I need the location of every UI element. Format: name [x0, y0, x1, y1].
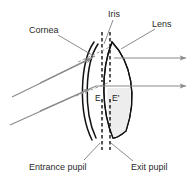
cornea-inner-arc	[87, 44, 98, 138]
label-lens: Lens	[152, 19, 172, 29]
label-cornea: Cornea	[29, 25, 59, 35]
label-entrance-pupil: Entrance pupil	[29, 162, 87, 172]
leader-iris	[104, 20, 113, 44]
label-point-e: E	[95, 93, 101, 103]
ray-bundle	[10, 47, 186, 125]
diagram-canvas: Cornea Iris Lens E E' Entrance pupil Exi…	[0, 0, 192, 179]
leader-exit-pupil	[111, 143, 133, 161]
label-exit-pupil: Exit pupil	[131, 162, 168, 172]
leader-entrance-pupil	[84, 143, 100, 160]
incoming-ray-upper-tail	[40, 56, 95, 83]
label-iris: Iris	[108, 9, 120, 19]
leader-lens	[121, 29, 155, 49]
eye-pupil-diagram: Cornea Iris Lens E E' Entrance pupil Exi…	[0, 0, 192, 179]
label-point-e-prime: E'	[112, 93, 120, 103]
lens-group	[104, 42, 132, 138]
leader-cornea	[58, 35, 92, 55]
